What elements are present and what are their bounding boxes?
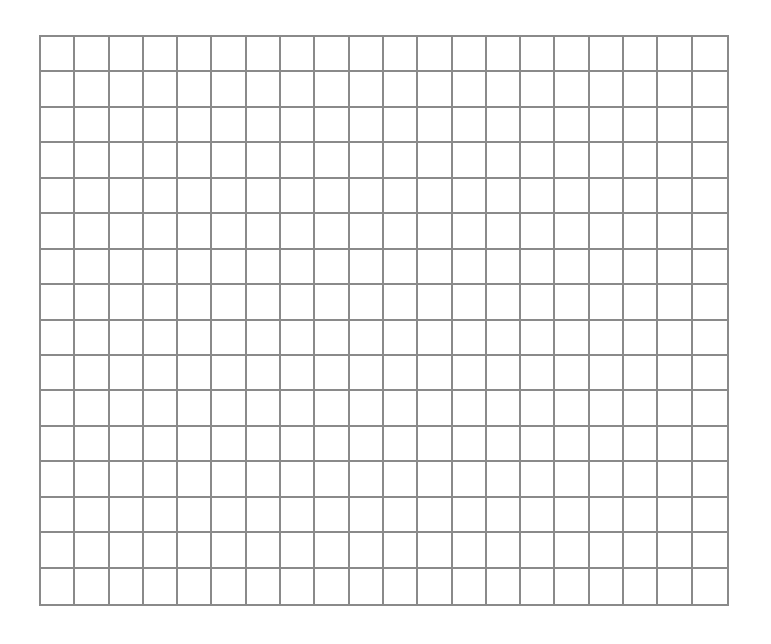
grid-cell bbox=[281, 569, 315, 604]
grid-cell bbox=[110, 108, 144, 143]
grid-cell bbox=[487, 498, 521, 533]
grid-cell bbox=[281, 108, 315, 143]
grid-cell bbox=[384, 179, 418, 214]
grid-cell bbox=[212, 143, 246, 178]
grid-cell bbox=[384, 569, 418, 604]
grid-cell bbox=[693, 427, 727, 462]
grid-cell bbox=[624, 37, 658, 72]
grid-cell bbox=[693, 569, 727, 604]
grid-cell bbox=[178, 356, 212, 391]
grid-cell bbox=[281, 285, 315, 320]
grid-cell bbox=[453, 108, 487, 143]
grid-cell bbox=[350, 37, 384, 72]
grid-cell bbox=[281, 533, 315, 568]
grid-cell bbox=[144, 356, 178, 391]
grid-cell bbox=[315, 250, 349, 285]
grid-cell bbox=[110, 462, 144, 497]
grid-cell bbox=[555, 321, 589, 356]
grid-cell bbox=[178, 108, 212, 143]
grid-cell bbox=[693, 179, 727, 214]
grid-cell bbox=[247, 498, 281, 533]
grid-cell bbox=[658, 179, 692, 214]
grid-cell bbox=[590, 356, 624, 391]
grid-cell bbox=[315, 179, 349, 214]
grid-cell bbox=[41, 250, 75, 285]
grid-cell bbox=[315, 72, 349, 107]
grid-cell bbox=[178, 250, 212, 285]
grid-cell bbox=[624, 179, 658, 214]
grid-cell bbox=[281, 391, 315, 426]
grid-cell bbox=[418, 427, 452, 462]
grid-cell bbox=[110, 498, 144, 533]
grid-cell bbox=[555, 569, 589, 604]
grid-cell bbox=[555, 462, 589, 497]
grid-cell bbox=[315, 143, 349, 178]
grid-cell bbox=[75, 427, 109, 462]
grid-cell bbox=[384, 356, 418, 391]
grid-cell bbox=[453, 569, 487, 604]
grid-cell bbox=[41, 143, 75, 178]
grid-cell bbox=[693, 533, 727, 568]
grid-cell bbox=[212, 498, 246, 533]
grid-cell bbox=[247, 462, 281, 497]
grid-cell bbox=[247, 356, 281, 391]
grid-cell bbox=[453, 462, 487, 497]
grid-cell bbox=[178, 321, 212, 356]
grid-cell bbox=[178, 569, 212, 604]
grid-cell bbox=[247, 72, 281, 107]
grid-cell bbox=[384, 37, 418, 72]
grid-cell bbox=[110, 321, 144, 356]
grid-cell bbox=[487, 462, 521, 497]
grid-cell bbox=[521, 498, 555, 533]
grid-cell bbox=[212, 214, 246, 249]
grid-cell bbox=[555, 285, 589, 320]
grid-cell bbox=[693, 356, 727, 391]
grid-cell bbox=[658, 72, 692, 107]
grid-cell bbox=[418, 391, 452, 426]
grid-cell bbox=[521, 179, 555, 214]
grid-cell bbox=[41, 321, 75, 356]
grid-cell bbox=[110, 569, 144, 604]
grid-cell bbox=[487, 391, 521, 426]
grid-cell bbox=[555, 533, 589, 568]
grid-cell bbox=[521, 321, 555, 356]
grid-cell bbox=[178, 214, 212, 249]
grid-cell bbox=[624, 321, 658, 356]
grid-cell bbox=[110, 72, 144, 107]
grid-cell bbox=[555, 356, 589, 391]
grid-cell bbox=[487, 37, 521, 72]
grid-cell bbox=[247, 37, 281, 72]
grid-cell bbox=[693, 72, 727, 107]
grid-cell bbox=[110, 356, 144, 391]
grid-cell bbox=[555, 498, 589, 533]
grid-cell bbox=[247, 427, 281, 462]
grid-cell bbox=[521, 569, 555, 604]
grid-cell bbox=[212, 462, 246, 497]
grid-cell bbox=[624, 285, 658, 320]
grid-cell bbox=[590, 498, 624, 533]
grid-cell bbox=[487, 533, 521, 568]
grid-cell bbox=[144, 108, 178, 143]
grid-cell bbox=[658, 108, 692, 143]
grid-cell bbox=[624, 533, 658, 568]
grid-cell bbox=[144, 569, 178, 604]
grid-cell bbox=[487, 179, 521, 214]
grid-cell bbox=[75, 108, 109, 143]
grid-cell bbox=[75, 391, 109, 426]
grid-cell bbox=[658, 391, 692, 426]
grid-cell bbox=[555, 214, 589, 249]
grid-cell bbox=[144, 214, 178, 249]
grid-cell bbox=[315, 569, 349, 604]
grid-cell bbox=[693, 37, 727, 72]
grid-cell bbox=[418, 108, 452, 143]
grid-cell bbox=[453, 533, 487, 568]
grid-cell bbox=[281, 179, 315, 214]
grid-cell bbox=[624, 356, 658, 391]
grid-cell bbox=[418, 569, 452, 604]
grid-cell bbox=[453, 498, 487, 533]
grid-cell bbox=[658, 250, 692, 285]
grid-cell bbox=[384, 321, 418, 356]
grid-cell bbox=[418, 214, 452, 249]
grid-cell bbox=[624, 143, 658, 178]
grid-cell bbox=[110, 285, 144, 320]
